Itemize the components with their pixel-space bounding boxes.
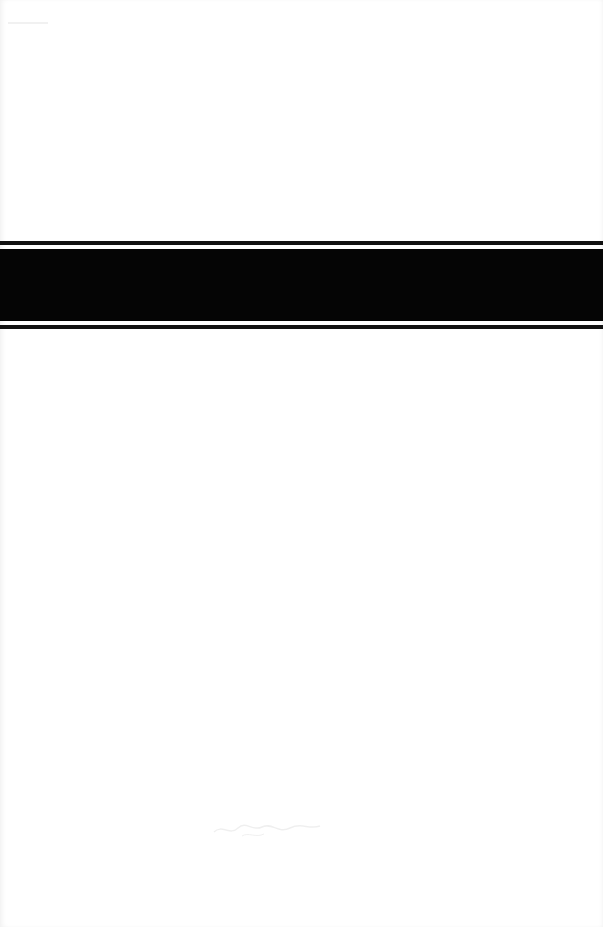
scan-artifact (8, 22, 48, 24)
black-band (0, 249, 603, 321)
bottom-rule (0, 325, 603, 329)
top-rule (0, 241, 603, 245)
document-page (0, 0, 603, 927)
faint-signature-mark (212, 818, 322, 840)
